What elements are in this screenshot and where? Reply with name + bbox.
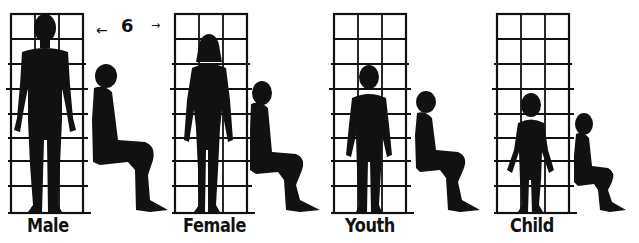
label-male: Male [27, 214, 69, 236]
child-standing-silhouette [507, 93, 554, 212]
label-female: Female [183, 214, 246, 236]
female-seated-silhouette [250, 81, 320, 212]
youth-standing-silhouette [346, 65, 392, 212]
dimension-arrow-left: ← [96, 22, 108, 38]
male-standing-silhouette [14, 14, 76, 212]
male-seated-silhouette [92, 64, 168, 212]
youth-seated-silhouette [415, 91, 480, 212]
anthropometric-figure: ← → [0, 0, 639, 243]
dimension-value: 6 [121, 15, 134, 36]
child-seated-silhouette [574, 113, 626, 212]
dimension-arrow-right: → [151, 19, 160, 32]
label-youth: Youth [345, 214, 395, 236]
label-child: Child [510, 214, 554, 236]
